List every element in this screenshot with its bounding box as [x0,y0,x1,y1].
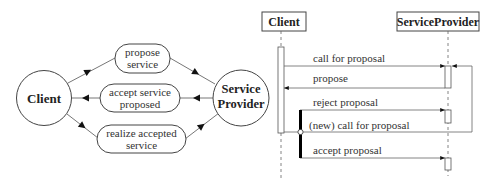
arrowhead-icon [83,67,92,76]
lifeline-label-provider: ServiceProvider [397,15,480,29]
realize-service-line2: service [126,139,157,151]
accept-service-line2: proposed [120,98,161,110]
edge-client-propose [68,58,115,83]
propose-service-line1: propose [125,46,160,58]
figure-canvas: Client Service Provider propose service … [0,0,497,185]
message-label-accept-proposal: accept proposal [313,144,382,156]
arrowhead-icon [191,68,201,78]
accept-service-line1: accept service [109,86,171,98]
activation-provider-3 [445,158,451,170]
client-node-label: Client [27,91,62,106]
message-label-new-call: (new) call for proposal [309,119,410,132]
activation-provider-2 [445,110,451,123]
arrowhead-icon [82,95,89,102]
arrowhead-icon [78,121,88,131]
activation-provider-1 [445,66,451,88]
propose-service-line2: service [127,58,158,70]
sequence-diagram: Client ServiceProvider call for proposal… [262,12,480,180]
lifeline-label-client: Client [268,15,299,29]
decision-point-icon [298,129,303,134]
provider-node-label-line2: Provider [218,97,265,111]
message-label-reject-proposal: reject proposal [313,96,378,108]
message-label-propose: propose [313,72,348,84]
interaction-diagram: Client Service Provider propose service … [17,44,270,153]
arrowhead-icon [193,95,200,102]
message-label-call-for-proposal: call for proposal [313,52,385,64]
realize-service-line1: realize accepted [106,127,177,139]
activation-client [278,47,284,133]
edge-propose-provider [170,58,215,84]
provider-node-label-line1: Service [222,82,261,96]
